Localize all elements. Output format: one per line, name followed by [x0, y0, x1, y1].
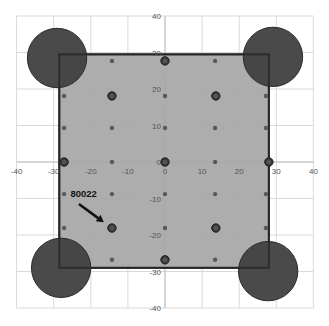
y-tick-label: 10 [152, 122, 161, 131]
small-dot-marker [213, 258, 217, 262]
medium-dot-core [214, 226, 218, 230]
small-dot-marker [110, 160, 114, 164]
y-tick-label: 0 [157, 158, 162, 167]
medium-dot-core [214, 94, 218, 98]
small-dot-marker [264, 192, 268, 196]
small-dot-marker [163, 226, 167, 230]
medium-dot-core [110, 94, 114, 98]
small-dot-marker [264, 226, 268, 230]
small-dot-marker [163, 94, 167, 98]
small-dot-marker [62, 192, 66, 196]
large-circle-marker [243, 27, 302, 86]
y-tick-label: 40 [152, 12, 161, 21]
medium-dot-core [267, 160, 271, 164]
small-dot-marker [264, 94, 268, 98]
y-tick-label: 20 [152, 85, 161, 94]
x-tick-label: 10 [198, 167, 207, 176]
x-tick-label: 40 [309, 167, 318, 176]
annotation-label: 80022 [70, 188, 96, 199]
small-dot-marker [110, 59, 114, 63]
medium-dot-core [163, 59, 167, 63]
medium-dot-core [110, 226, 114, 230]
small-dot-marker [213, 126, 217, 130]
small-dot-marker [110, 126, 114, 130]
small-dot-marker [110, 192, 114, 196]
small-dot-marker [213, 59, 217, 63]
x-tick-label: -10 [122, 167, 134, 176]
y-tick-label: -20 [149, 231, 161, 240]
small-dot-marker [110, 258, 114, 262]
small-dot-marker [163, 192, 167, 196]
medium-dot-core [163, 160, 167, 164]
y-tick-label: -30 [149, 268, 161, 277]
x-tick-label: -40 [11, 167, 23, 176]
y-tick-label: 30 [152, 49, 161, 58]
x-tick-label: -20 [85, 167, 97, 176]
y-tick-label: -40 [149, 304, 161, 313]
x-tick-label: -30 [48, 167, 60, 176]
small-dot-marker [264, 126, 268, 130]
y-tick-label: -10 [149, 195, 161, 204]
small-dot-marker [213, 160, 217, 164]
small-dot-marker [62, 226, 66, 230]
medium-dot-core [163, 258, 167, 262]
scatter-chart: -40-30-20-10010203040-40-30-20-100102030… [0, 0, 329, 326]
medium-dot-core [62, 160, 66, 164]
small-dot-marker [62, 126, 66, 130]
x-tick-label: 20 [235, 167, 244, 176]
small-dot-marker [163, 126, 167, 130]
large-circle-marker [27, 28, 86, 87]
small-dot-marker [213, 192, 217, 196]
x-tick-label: 30 [272, 167, 281, 176]
x-tick-label: 0 [163, 167, 168, 176]
small-dot-marker [62, 94, 66, 98]
